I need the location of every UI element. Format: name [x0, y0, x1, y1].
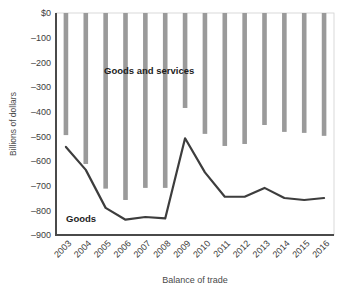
bar-2003	[64, 13, 69, 135]
y-axis-tick-labels: $0–100–200–300–400–500–600–700–800–900	[31, 8, 51, 240]
x-tick-2007: 2007	[132, 238, 153, 259]
x-axis-tick-labels: 2003200420052006200720082009201020112012…	[52, 238, 331, 259]
bar-2008	[163, 13, 168, 188]
x-tick-2009: 2009	[171, 238, 192, 259]
x-tick-2014: 2014	[271, 238, 292, 259]
x-tick-2012: 2012	[231, 238, 252, 259]
annotation-goods-and-services: Goods and services	[104, 65, 194, 76]
y-tick--400: –400	[31, 107, 51, 117]
x-tick-2006: 2006	[112, 238, 133, 259]
bar-2009	[183, 13, 188, 108]
x-tick-2011: 2011	[211, 238, 232, 259]
y-tick--100: –100	[31, 33, 51, 43]
y-tick--500: –500	[31, 132, 51, 142]
x-tick-2008: 2008	[151, 238, 172, 259]
bar-2011	[222, 13, 227, 146]
bar-2007	[143, 13, 148, 188]
bar-2015	[302, 13, 307, 133]
x-tick-2010: 2010	[191, 238, 212, 259]
x-tick-2013: 2013	[251, 238, 272, 259]
y-axis-title: Billions of dollars	[8, 92, 18, 156]
bar-2012	[242, 13, 247, 144]
y-tick--300: –300	[31, 82, 51, 92]
x-tick-2015: 2015	[290, 238, 311, 259]
bar-2004	[83, 13, 88, 164]
y-tick--600: –600	[31, 156, 51, 166]
bar-2010	[203, 13, 208, 134]
y-tick-0: $0	[41, 8, 51, 18]
x-axis-title: Balance of trade	[162, 275, 228, 285]
bar-2013	[262, 13, 267, 125]
y-tick--700: –700	[31, 181, 51, 191]
balance-of-trade-chart: $0–100–200–300–400–500–600–700–800–900 2…	[0, 0, 350, 291]
bar-2014	[282, 13, 287, 132]
chart-figure: $0–100–200–300–400–500–600–700–800–900 2…	[0, 0, 350, 291]
y-tick--200: –200	[31, 58, 51, 68]
annotation-goods: Goods	[66, 213, 96, 224]
bar-2016	[322, 13, 327, 136]
y-tick--800: –800	[31, 206, 51, 216]
bar-2006	[123, 13, 128, 200]
x-tick-2005: 2005	[92, 238, 113, 259]
bar-2005	[103, 13, 108, 189]
plot-area-background	[56, 13, 334, 235]
x-tick-2016: 2016	[310, 238, 331, 259]
x-tick-2004: 2004	[72, 238, 93, 259]
y-tick--900: –900	[31, 230, 51, 240]
x-tick-2003: 2003	[52, 238, 73, 259]
